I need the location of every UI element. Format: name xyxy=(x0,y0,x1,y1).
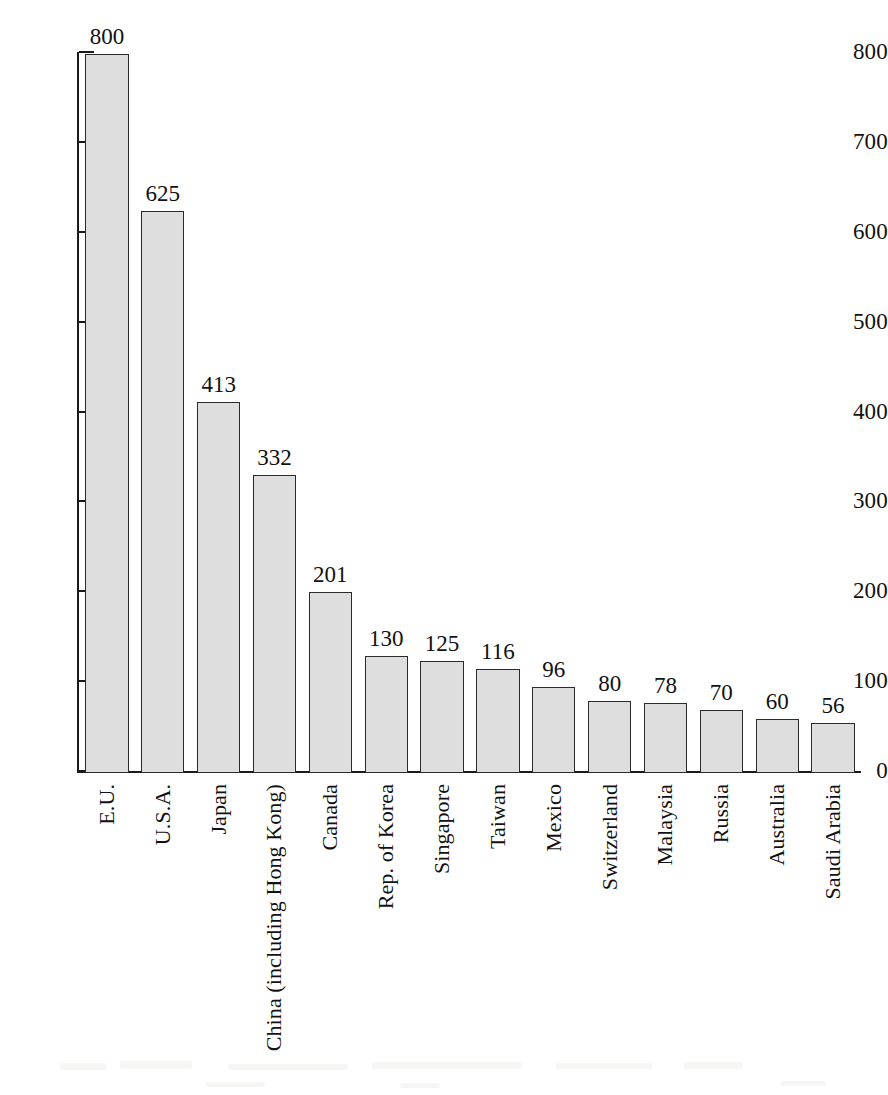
x-axis-category-label-text: U.S.A. xyxy=(152,784,174,845)
x-axis-category-label: Japan xyxy=(191,784,247,1084)
bar-value-label: 60 xyxy=(766,690,789,713)
bar-group[interactable]: 96 xyxy=(532,52,575,773)
x-axis-category-label-text: E.U. xyxy=(96,784,118,825)
x-axis-category-label-text: Rep. of Korea xyxy=(375,784,397,909)
bar-value-label: 201 xyxy=(313,563,348,586)
bar[interactable] xyxy=(644,703,687,773)
bar-group[interactable]: 78 xyxy=(644,52,687,773)
x-axis-category-label: Taiwan xyxy=(470,784,526,1084)
scan-artifact xyxy=(780,1081,826,1086)
bar-group[interactable]: 413 xyxy=(197,52,240,773)
bar-value-label: 625 xyxy=(146,182,181,205)
bar-value-label: 56 xyxy=(822,694,845,717)
x-axis-category-label: Canada xyxy=(302,784,358,1084)
bar-value-label: 332 xyxy=(257,446,292,469)
x-axis-category-label: Saudi Arabia xyxy=(805,784,861,1084)
x-axis-category-label-text: Saudi Arabia xyxy=(822,784,844,899)
x-axis-category-label: Mexico xyxy=(526,784,582,1084)
x-axis-category-label: Russia xyxy=(693,784,749,1084)
x-axis-category-label-text: Australia xyxy=(766,784,788,866)
bar-value-label: 125 xyxy=(425,632,460,655)
bar-group[interactable]: 125 xyxy=(420,52,463,773)
x-axis-category-label: China (including Hong Kong) xyxy=(247,784,303,1084)
bar[interactable] xyxy=(85,54,128,773)
scan-artifact xyxy=(684,1062,742,1069)
x-axis-category-label-text: China (including Hong Kong) xyxy=(263,784,285,1051)
x-axis-category-label-text: Taiwan xyxy=(487,784,509,849)
bar-value-label: 800 xyxy=(90,25,125,48)
x-axis-category-label: Switzerland xyxy=(582,784,638,1084)
bar-chart: 0100200300400500600700800 80062541333220… xyxy=(0,0,888,1095)
x-axis-category-label-text: Russia xyxy=(710,784,732,843)
x-axis-category-label: Singapore xyxy=(414,784,470,1084)
bar[interactable] xyxy=(365,656,408,773)
bar-group[interactable]: 201 xyxy=(309,52,352,773)
bar[interactable] xyxy=(253,475,296,773)
bar-group[interactable]: 130 xyxy=(365,52,408,773)
x-axis-category-label: Malaysia xyxy=(638,784,694,1084)
bar-group[interactable]: 116 xyxy=(476,52,519,773)
x-axis-category-label: U.S.A. xyxy=(135,784,191,1084)
bar-value-label: 70 xyxy=(710,681,733,704)
bar[interactable] xyxy=(756,719,799,773)
x-axis-category-label-text: Singapore xyxy=(431,784,453,874)
bar-value-label: 96 xyxy=(542,658,565,681)
bar-value-label: 413 xyxy=(201,373,236,396)
scan-artifact xyxy=(372,1062,522,1069)
bar-value-label: 80 xyxy=(598,672,621,695)
x-axis-category-label-text: Canada xyxy=(319,784,341,851)
bar-value-label: 130 xyxy=(369,627,404,650)
scan-artifact xyxy=(400,1083,440,1088)
bar-group[interactable]: 56 xyxy=(811,52,854,773)
x-axis-category-label-text: Switzerland xyxy=(599,784,621,890)
bar[interactable] xyxy=(197,402,240,773)
plot-area: 800625413332201130125116968078706056 xyxy=(79,52,861,773)
scan-artifact xyxy=(556,1063,652,1069)
x-axis-category-label-text: Malaysia xyxy=(654,784,676,865)
x-axis-category-label: Australia xyxy=(749,784,805,1084)
bar-group[interactable]: 70 xyxy=(700,52,743,773)
bar-group[interactable]: 800 xyxy=(85,52,128,773)
x-axis-category-label: Rep. of Korea xyxy=(358,784,414,1084)
x-axis-category-label-text: Mexico xyxy=(543,784,565,852)
bar[interactable] xyxy=(476,669,519,773)
bar[interactable] xyxy=(420,661,463,773)
bar[interactable] xyxy=(811,723,854,773)
scan-artifact xyxy=(228,1064,348,1070)
bar[interactable] xyxy=(141,211,184,773)
scan-artifact xyxy=(120,1061,192,1069)
bar[interactable] xyxy=(588,701,631,773)
bar-group[interactable]: 60 xyxy=(756,52,799,773)
bar-group[interactable]: 80 xyxy=(588,52,631,773)
bar-value-label: 116 xyxy=(481,640,515,663)
bar-group[interactable]: 625 xyxy=(141,52,184,773)
bar[interactable] xyxy=(309,592,352,773)
scan-artifact xyxy=(205,1082,265,1087)
x-axis-category-label-text: Japan xyxy=(208,784,230,835)
bar[interactable] xyxy=(700,710,743,773)
x-axis-category-label: E.U. xyxy=(79,784,135,1084)
bar[interactable] xyxy=(532,687,575,773)
bar-group[interactable]: 332 xyxy=(253,52,296,773)
scan-artifact xyxy=(60,1063,106,1070)
bar-value-label: 78 xyxy=(654,674,677,697)
